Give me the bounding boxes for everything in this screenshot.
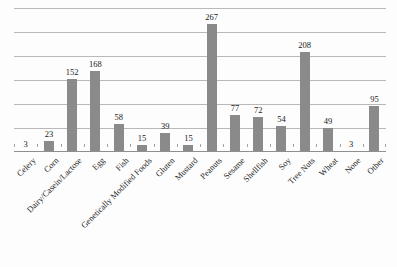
- bar-slot: 77: [223, 8, 246, 152]
- x-axis-ticks: [14, 144, 386, 148]
- x-axis-label-text: Soy: [277, 154, 295, 172]
- x-axis-label: Peanuts: [198, 154, 225, 181]
- x-axis-label: Egg: [90, 154, 108, 172]
- x-axis-label-text: Peanuts: [198, 154, 225, 181]
- bar-value-label: 49: [324, 117, 333, 126]
- bar-value-label: 72: [254, 106, 263, 115]
- x-axis-label-text: None: [343, 154, 365, 176]
- x-axis-label: Mustard: [173, 154, 202, 183]
- bar-value-label: 23: [45, 130, 54, 139]
- bar-slot: 58: [107, 8, 130, 152]
- x-axis-tick: [247, 144, 248, 147]
- x-axis-tick: [316, 144, 317, 147]
- bar-value-label: 15: [184, 134, 193, 143]
- x-axis-tick: [293, 144, 294, 147]
- x-axis-line: [14, 151, 386, 152]
- plot-area: 3231521685815391526777725420849395: [14, 8, 386, 152]
- x-axis-label-text: Mustard: [173, 154, 202, 183]
- bar-slot: 168: [84, 8, 107, 152]
- x-axis-label: Other: [365, 154, 387, 176]
- bar[interactable]: [160, 133, 170, 152]
- x-axis-label: Wheat: [317, 154, 341, 178]
- bar-slot: 95: [363, 8, 386, 152]
- bar-slot: 3: [340, 8, 363, 152]
- x-axis-category-labels: CeleryCornDairy/Casein/LactoseEggFishGen…: [14, 154, 386, 262]
- bar[interactable]: [276, 126, 286, 152]
- x-axis-tick: [61, 144, 62, 147]
- x-axis-tick: [37, 144, 38, 147]
- x-axis-label-text: Wheat: [317, 154, 341, 178]
- bar-slot: 54: [270, 8, 293, 152]
- bar-slot: 39: [154, 8, 177, 152]
- x-axis-tick: [363, 144, 364, 147]
- chart-title: [0, 0, 397, 4]
- bar-slot: 267: [200, 8, 223, 152]
- x-axis-tick: [200, 144, 201, 147]
- bar-value-label: 168: [89, 60, 102, 69]
- bar-value-label: 15: [138, 134, 147, 143]
- bar-value-label: 267: [205, 13, 218, 22]
- x-axis-label-text: Egg: [90, 154, 108, 172]
- x-axis-tick: [130, 144, 131, 147]
- x-axis-label-text: Fish: [113, 154, 132, 173]
- bar-value-label: 95: [370, 95, 379, 104]
- bar-slot: 72: [247, 8, 270, 152]
- x-axis-label: None: [343, 154, 365, 176]
- bar-slot: 152: [61, 8, 84, 152]
- bar[interactable]: [90, 71, 100, 152]
- x-axis-tick: [107, 144, 108, 147]
- x-axis-tick: [177, 144, 178, 147]
- bar-series: 3231521685815391526777725420849395: [14, 8, 386, 152]
- x-axis-tick: [154, 144, 155, 147]
- bar[interactable]: [67, 79, 77, 152]
- x-axis-label-text: Other: [365, 154, 387, 176]
- bar-slot: 23: [37, 8, 60, 152]
- bar-value-label: 208: [298, 41, 311, 50]
- bar[interactable]: [323, 128, 333, 152]
- bar[interactable]: [207, 24, 217, 152]
- x-axis-label: Celery: [14, 154, 39, 179]
- bar-value-label: 58: [114, 113, 123, 122]
- bar[interactable]: [300, 52, 310, 152]
- x-axis-tick: [385, 144, 386, 147]
- x-axis-tick: [84, 144, 85, 147]
- bar-value-label: 54: [277, 115, 286, 124]
- x-axis-tick: [14, 144, 15, 147]
- x-axis-label: Soy: [277, 154, 295, 172]
- x-axis-label-text: Celery: [14, 154, 39, 179]
- bar-slot: 15: [130, 8, 153, 152]
- bar-slot: 49: [316, 8, 339, 152]
- x-axis-tick: [270, 144, 271, 147]
- bar-slot: 15: [177, 8, 200, 152]
- bar-chart: 3231521685815391526777725420849395 Celer…: [0, 0, 397, 267]
- bar-value-label: 39: [161, 122, 170, 131]
- bar-value-label: 152: [66, 68, 79, 77]
- x-axis-tick: [340, 144, 341, 147]
- x-axis-label: Fish: [113, 154, 132, 173]
- bar-slot: 208: [293, 8, 316, 152]
- bar-value-label: 77: [231, 104, 240, 113]
- bar-slot: 3: [14, 8, 37, 152]
- x-axis-tick: [223, 144, 224, 147]
